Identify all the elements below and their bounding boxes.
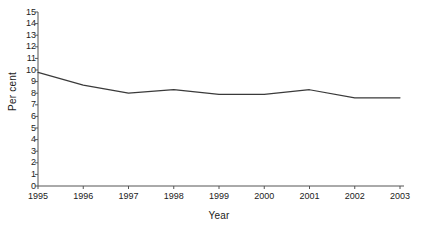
axis-lines [38, 12, 404, 186]
x-axis-title: Year [38, 210, 400, 221]
line-chart: Per cent 0123456789101112131415 19951996… [0, 0, 423, 232]
plot-area [0, 0, 423, 232]
data-series-line [38, 72, 400, 98]
